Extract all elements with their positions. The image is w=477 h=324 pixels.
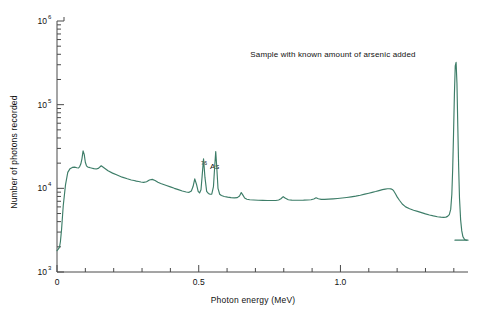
- x-axis-title: Photon energy (MeV): [211, 295, 296, 305]
- y-tick-label-exponent: 6: [48, 14, 52, 20]
- y-axis-title: Number of photons recorded: [9, 95, 19, 208]
- x-tick-labels: 00.51.0: [55, 277, 347, 287]
- y-tick-label: 10: [38, 100, 48, 110]
- y-axis-ticks: [57, 17, 64, 272]
- y-tick-label-exponent: 4: [48, 181, 52, 187]
- y-tick-label-exponent: 5: [48, 98, 52, 104]
- figure-note: Sample with known amount of arsenic adde…: [250, 50, 415, 59]
- y-tick-label-exponent: 3: [48, 265, 52, 271]
- y-tick-label: 10: [38, 267, 48, 277]
- spectrum-curve: [57, 62, 467, 250]
- x-tick-label: 0.5: [193, 277, 205, 287]
- x-axis-ticks: [57, 265, 454, 272]
- spectrum-figure: 103104105106 00.51.0 Photon energy (MeV)…: [0, 0, 477, 324]
- y-tick-labels: 103104105106: [38, 14, 52, 277]
- x-tick-label: 1.0: [335, 277, 347, 287]
- y-tick-label: 10: [38, 183, 48, 193]
- y-tick-label: 10: [38, 16, 48, 26]
- x-tick-label: 0: [55, 277, 60, 287]
